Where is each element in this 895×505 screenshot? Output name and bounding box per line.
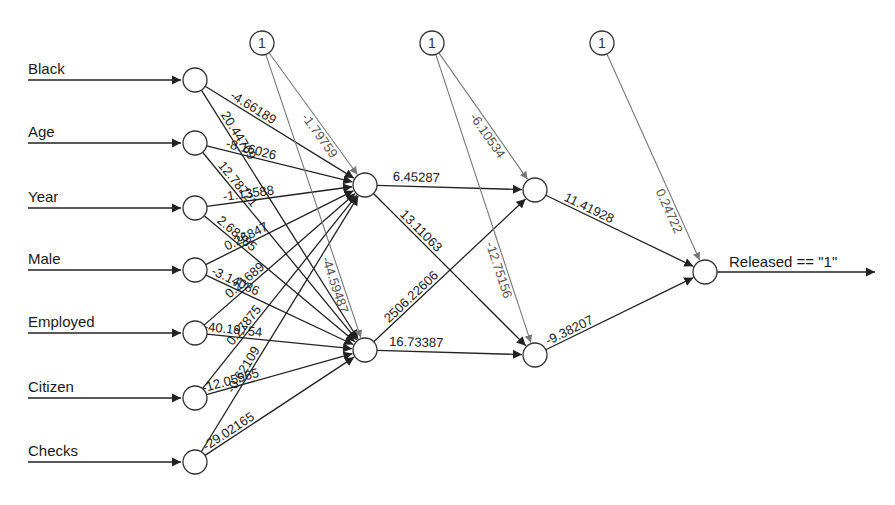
weight-h1-1-h2-1: 16.73387 xyxy=(389,334,444,351)
input-node-age-circle xyxy=(183,131,207,155)
input-node-male xyxy=(183,258,207,282)
input-label-black: Black xyxy=(28,60,65,77)
bias-node-2-label: 1 xyxy=(428,35,436,51)
output-node-circle xyxy=(693,260,717,284)
input-label-age: Age xyxy=(28,123,55,140)
weight-h1-0-h2-1: 13.11063 xyxy=(397,207,445,255)
hidden2-node-1-circle xyxy=(523,343,547,367)
weight-bias3-out: 0.24722 xyxy=(653,186,686,235)
input-node-checks-circle xyxy=(183,450,207,474)
bias-node-1: 1 xyxy=(250,31,274,55)
hidden1-node-0 xyxy=(353,173,377,197)
weight-h1-1-h2-0: 2506.22606 xyxy=(381,268,441,326)
output-label: Released == "1" xyxy=(729,253,837,270)
edge-bias2-h2-1 xyxy=(436,54,531,342)
input-label-male: Male xyxy=(28,250,61,267)
input-node-male-circle xyxy=(183,258,207,282)
input-label-checks: Checks xyxy=(28,442,78,459)
bias-node-3: 1 xyxy=(590,31,614,55)
input-node-black-circle xyxy=(183,68,207,92)
network-canvas: BlackAgeYearMaleEmployedCitizenChecks-4.… xyxy=(0,0,895,505)
hidden1-node-1-circle xyxy=(353,338,377,362)
input-node-age xyxy=(183,131,207,155)
input-node-black xyxy=(183,68,207,92)
hidden1-node-1 xyxy=(353,338,377,362)
hidden1-node-0-circle xyxy=(353,173,377,197)
hidden2-node-0 xyxy=(523,178,547,202)
output-node xyxy=(693,260,717,284)
edge-h1-1-h2-1 xyxy=(377,350,522,354)
neural-network-diagram: BlackAgeYearMaleEmployedCitizenChecks-4.… xyxy=(0,0,895,505)
input-node-year-circle xyxy=(183,196,207,220)
input-label-citizen: Citizen xyxy=(28,378,74,395)
weight-h1-0-h2-0: 6.45287 xyxy=(393,169,440,185)
bias-node-3-label: 1 xyxy=(598,35,606,51)
edge-h1-0-h2-0 xyxy=(377,185,522,189)
bias-node-2: 1 xyxy=(420,31,444,55)
input-label-employed: Employed xyxy=(28,313,95,330)
input-node-employed-circle xyxy=(183,321,207,345)
input-label-year: Year xyxy=(28,188,58,205)
weight-bias2-h2-1: -12.75156 xyxy=(483,240,516,300)
input-node-citizen xyxy=(183,386,207,410)
weight-labels-layer: BlackAgeYearMaleEmployedCitizenChecks-4.… xyxy=(28,60,837,459)
input-node-year xyxy=(183,196,207,220)
weight-checks-h1-1: -29.02165 xyxy=(200,409,257,454)
bias-node-1-label: 1 xyxy=(258,35,266,51)
weight-bias1-h1-0: -1.79759 xyxy=(299,110,341,160)
weight-bias2-h2-0: -6.10534 xyxy=(467,110,509,161)
input-node-citizen-circle xyxy=(183,386,207,410)
input-node-checks xyxy=(183,450,207,474)
hidden2-node-0-circle xyxy=(523,178,547,202)
hidden2-node-1 xyxy=(523,343,547,367)
weight-h2-0-out: 11.41928 xyxy=(562,190,616,227)
input-node-employed xyxy=(183,321,207,345)
